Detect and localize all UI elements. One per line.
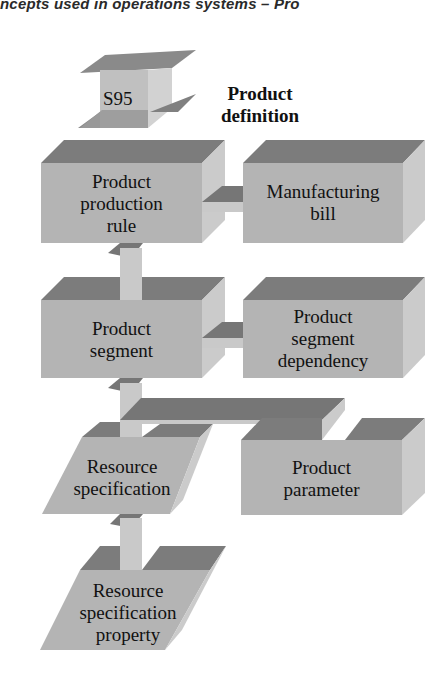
label-line: Product	[292, 457, 351, 479]
label-line: dependency	[278, 350, 369, 372]
label-line: specification	[79, 602, 176, 624]
label-line: Resource	[87, 456, 158, 478]
label-line: Resource	[93, 580, 164, 602]
label-line: parameter	[284, 479, 360, 501]
diagram-title-line2: definition	[200, 105, 320, 127]
label-resource-specification: Resource specification	[52, 450, 192, 506]
label-product-segment-dependency: Product segment dependency	[243, 300, 403, 378]
label-product-production-rule: Product production rule	[41, 166, 202, 242]
s95-ibeam-icon	[78, 50, 196, 128]
diagram-title-line1: Product	[200, 83, 320, 105]
label-line: Manufacturing	[267, 181, 380, 203]
label-product-segment: Product segment	[41, 302, 202, 378]
label-line: segment	[90, 340, 153, 362]
label-line: Product	[92, 171, 151, 193]
label-manufacturing-bill: Manufacturing bill	[243, 163, 403, 243]
label-product-parameter: Product parameter	[241, 442, 402, 516]
s95-badge-label: S95	[103, 88, 133, 110]
label-line: Product	[293, 306, 352, 328]
label-line: segment	[291, 328, 354, 350]
label-line: production	[80, 193, 162, 215]
label-resource-specification-property: Resource specification property	[58, 576, 198, 650]
label-line: specification	[73, 478, 170, 500]
label-line: Product	[92, 318, 151, 340]
label-line: property	[96, 624, 160, 646]
diagram-title: Product definition	[200, 83, 320, 127]
label-line: bill	[310, 203, 335, 225]
label-line: rule	[107, 215, 137, 237]
